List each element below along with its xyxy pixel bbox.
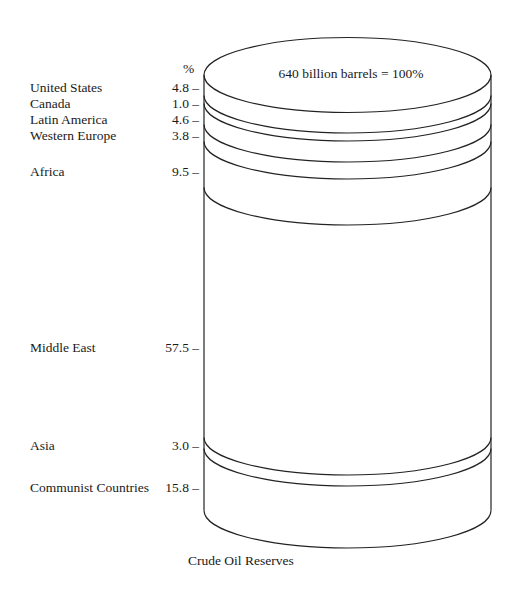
row-label: Canada [30, 96, 70, 112]
row-value: 1.0 – [172, 96, 199, 112]
band-boundary [204, 142, 491, 179]
row-value: 4.6 – [172, 112, 199, 128]
row-label: Asia [30, 438, 55, 454]
row-label: Communist Countries [30, 480, 149, 496]
total-label: 640 billion barrels = 100% [258, 66, 444, 82]
row-label: United States [30, 80, 102, 96]
percent-header: % [183, 61, 194, 77]
row-label: Western Europe [30, 128, 116, 144]
cylinder-bottom [204, 511, 491, 548]
band-boundary [204, 438, 491, 475]
band-boundary [204, 188, 491, 225]
band-boundary [204, 96, 491, 133]
row-label: Africa [30, 164, 64, 180]
row-value: 9.5 – [172, 164, 199, 180]
row-label: Middle East [30, 340, 96, 356]
row-value: 57.5 – [165, 340, 199, 356]
row-value: 3.8 – [172, 128, 199, 144]
row-value: 4.8 – [172, 80, 199, 96]
row-label: Latin America [30, 112, 108, 128]
chart-caption: Crude Oil Reserves [188, 553, 294, 569]
row-value: 3.0 – [172, 438, 199, 454]
row-value: 15.8 – [165, 480, 199, 496]
band-boundary [204, 449, 491, 486]
